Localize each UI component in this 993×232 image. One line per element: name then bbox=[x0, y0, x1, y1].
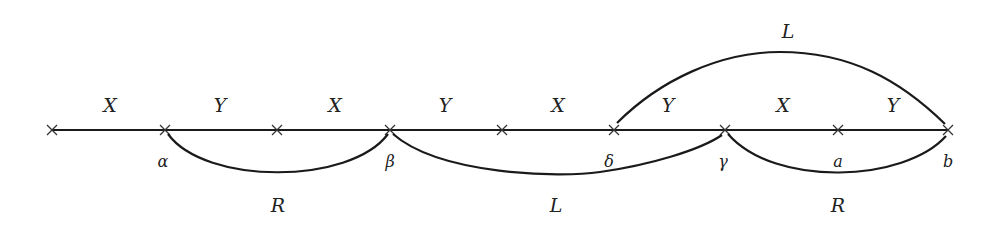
diagram-canvas: X Y X Y X Y X Y α β δ γ a b R L R L bbox=[0, 0, 993, 232]
point-label-gamma: γ bbox=[718, 152, 728, 171]
arc-label-l-bottom: L bbox=[549, 194, 563, 216]
segment-label: X bbox=[549, 94, 566, 116]
arc-r-alpha-beta bbox=[168, 134, 388, 172]
arc-l-beta-gamma bbox=[393, 134, 722, 174]
segment-labels: X Y X Y X Y X Y bbox=[101, 94, 901, 116]
point-label-delta: δ bbox=[604, 152, 614, 171]
segment-label: Y bbox=[439, 94, 454, 116]
point-labels: α β δ γ a b bbox=[158, 152, 954, 171]
arc-label-r-left: R bbox=[270, 194, 285, 216]
segment-label: X bbox=[101, 94, 118, 116]
segment-label: X bbox=[326, 94, 343, 116]
point-label-a: a bbox=[833, 152, 843, 171]
arc-label-l-top: L bbox=[781, 20, 795, 42]
point-label-beta: β bbox=[384, 152, 394, 171]
arc-label-r-right: R bbox=[830, 194, 845, 216]
segment-label: Y bbox=[887, 94, 902, 116]
arc-labels: R L R L bbox=[270, 20, 845, 216]
point-label-alpha: α bbox=[158, 152, 169, 171]
segment-label: Y bbox=[214, 94, 229, 116]
segment-label: Y bbox=[662, 94, 677, 116]
segment-label: X bbox=[774, 94, 791, 116]
point-label-b: b bbox=[943, 152, 953, 171]
